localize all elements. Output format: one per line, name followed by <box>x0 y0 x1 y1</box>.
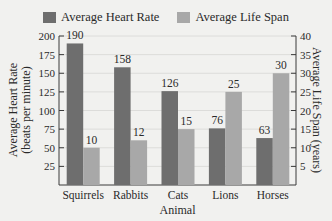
value-label-heart-rate: 190 <box>66 29 84 41</box>
bar-heart-rate <box>114 67 131 185</box>
bar-heart-rate <box>67 43 84 185</box>
category-label: Rabbits <box>113 189 149 201</box>
value-label-heart-rate: 158 <box>114 53 132 65</box>
bar-life-span <box>178 129 195 185</box>
right-tick-label: 10 <box>300 142 312 154</box>
value-label-heart-rate: 76 <box>211 114 223 126</box>
bar-life-span <box>83 148 100 185</box>
left-tick-label: 150 <box>39 67 56 79</box>
bar-life-span <box>225 92 242 185</box>
category-label: Cats <box>168 189 189 201</box>
bar-heart-rate <box>162 91 179 185</box>
left-tick-label: 175 <box>39 49 56 61</box>
category-label: Squirrels <box>62 189 104 202</box>
category-label: Horses <box>257 189 289 201</box>
right-tick-label: 35 <box>300 49 312 61</box>
right-tick-label: 25 <box>300 86 312 98</box>
right-tick-label: 5 <box>300 160 306 172</box>
left-tick-label: 50 <box>44 142 56 154</box>
value-label-life-span: 12 <box>133 126 145 138</box>
right-tick-label: 15 <box>300 123 312 135</box>
bar-life-span <box>131 140 148 185</box>
bar-life-span <box>273 73 290 185</box>
value-label-life-span: 30 <box>275 59 287 71</box>
bar-heart-rate <box>256 138 273 185</box>
left-tick-label: 125 <box>39 86 56 98</box>
value-label-heart-rate: 63 <box>259 124 271 136</box>
right-tick-label: 20 <box>300 105 312 117</box>
bar-heart-rate <box>209 128 226 185</box>
right-tick-label: 30 <box>300 67 312 79</box>
value-label-heart-rate: 126 <box>161 77 179 89</box>
category-label: Lions <box>212 189 239 201</box>
right-tick-label: 40 <box>300 30 312 42</box>
left-tick-label: 200 <box>39 30 56 42</box>
left-tick-label: 75 <box>44 123 56 135</box>
value-label-life-span: 15 <box>181 115 193 127</box>
left-tick-label: 25 <box>44 160 56 172</box>
left-tick-label: 100 <box>39 105 56 117</box>
value-label-life-span: 25 <box>228 78 240 90</box>
value-label-life-span: 10 <box>86 134 98 146</box>
bar-chart: 2550751001251501752005101520253035401901… <box>0 0 332 221</box>
